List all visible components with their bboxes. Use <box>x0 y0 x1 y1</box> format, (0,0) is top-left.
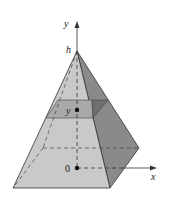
x-axis-label: x <box>150 171 156 182</box>
y-axis-arrow-icon <box>75 21 80 28</box>
apex-label: h <box>66 44 71 55</box>
origin-label: 0 <box>65 163 70 174</box>
origin-point <box>75 166 79 170</box>
slice-point <box>75 108 79 112</box>
y-axis-label: y <box>63 18 69 29</box>
x-axis-arrow-icon <box>150 166 157 171</box>
pyramid-diagram: y h y 0 x <box>0 0 175 207</box>
slice-label: y <box>65 105 71 116</box>
